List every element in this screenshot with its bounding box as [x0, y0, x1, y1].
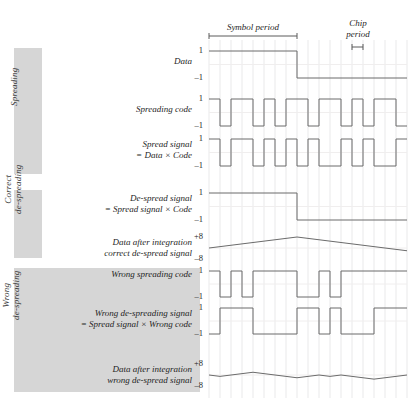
row-label-line2: wrong de-spread signal — [107, 375, 192, 386]
axis-tick-top: 1 — [187, 302, 203, 312]
axis-tick-top: 1 — [187, 133, 203, 143]
row-label-line1: De-spread signal — [105, 193, 192, 204]
axis-tick-bottom: –1 — [187, 291, 203, 301]
row-label-line1: Data — [174, 56, 192, 67]
axis-tick-top: +8 — [187, 358, 203, 368]
chip-period-label: Chipperiod — [330, 18, 386, 39]
row-label-line1: Spreading code — [136, 104, 192, 115]
axis-tick-bottom: –8 — [187, 380, 203, 390]
row-label-line1: Spread signal — [136, 139, 192, 150]
axis-tick-top: 1 — [187, 265, 203, 275]
row-label-line2: = Spread signal × Wrong code — [81, 319, 192, 330]
band-spreading-label: Spreading — [9, 68, 19, 106]
row-label-data-after-integration-wrong: Data after integrationwrong de-spread si… — [107, 364, 192, 386]
row-label-line2: correct de-spread signal — [104, 248, 192, 259]
chip-period-bracket — [352, 44, 363, 50]
row-label-data: Data — [174, 56, 192, 67]
grid — [209, 40, 407, 398]
axis-tick-top: +8 — [187, 231, 203, 241]
row-label-line1: Data after integration — [107, 364, 192, 375]
row-label-line1: Wrong spreading code — [111, 269, 192, 280]
row-label-data-after-integration-correct: Data after integrationcorrect de-spread … — [104, 237, 192, 259]
axis-tick-bottom: –1 — [187, 214, 203, 224]
axis-tick-bottom: –1 — [187, 120, 203, 130]
row-label-line2: = Spread signal × Code — [105, 204, 192, 215]
axis-tick-bottom: –8 — [187, 253, 203, 263]
axis-tick-bottom: –1 — [187, 72, 203, 82]
band-wrong-de-spreading-label: Wrongde-spreading — [1, 270, 21, 320]
row-label-spreading-code: Spreading code — [136, 104, 192, 115]
band-correct-de-spreading-label: Correctde-spreading — [3, 164, 23, 214]
axis-tick-bottom: –1 — [187, 328, 203, 338]
axis-tick-bottom: –1 — [187, 160, 203, 170]
axis-tick-top: 1 — [187, 187, 203, 197]
row-label-line1: Data after integration — [104, 237, 192, 248]
row-label-spread-signal: Spread signal= Data × Code — [136, 139, 192, 161]
symbol-period-bracket — [209, 33, 297, 39]
row-label-line1: Wrong de-spreading signal — [81, 308, 192, 319]
axis-tick-top: 1 — [187, 45, 203, 55]
symbol-period-label: Symbol period — [209, 22, 297, 33]
row-label-line2: = Data × Code — [136, 150, 192, 161]
axis-tick-top: 1 — [187, 93, 203, 103]
row-label-de-spread-signal: De-spread signal= Spread signal × Code — [105, 193, 192, 215]
row-label-wrong-spreading-code: Wrong spreading code — [111, 269, 192, 280]
row-label-wrong-de-spreading-signal: Wrong de-spreading signal= Spread signal… — [81, 308, 192, 330]
